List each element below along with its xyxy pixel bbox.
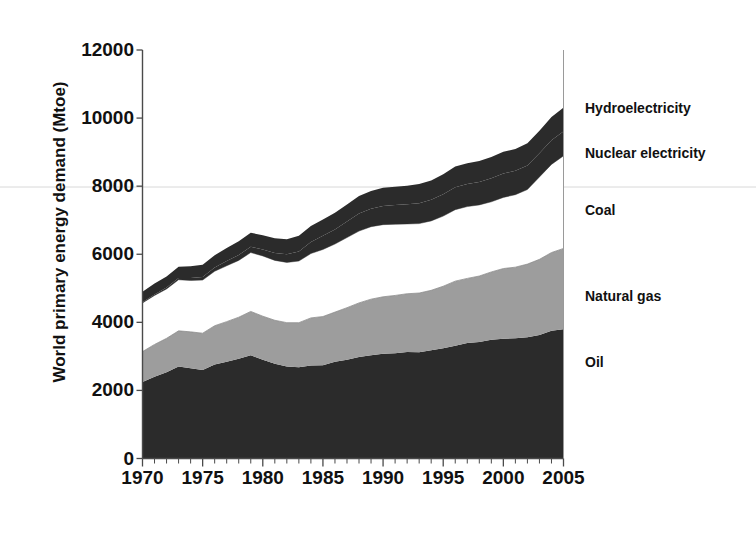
y-axis-tick-labels: 020004000600080001000012000	[46, 0, 134, 544]
y-axis-tick-label: 6000	[52, 244, 134, 263]
y-axis-ticks	[137, 50, 143, 459]
y-axis-tick-label: 8000	[52, 176, 134, 195]
series-label-hydroelectricity: Hydroelectricity	[585, 101, 691, 115]
y-axis-tick-label: 10000	[52, 108, 134, 127]
chart-figure: World primary energy demand (Mtoe) 02000…	[0, 0, 756, 544]
x-axis-ticks	[143, 459, 564, 467]
x-axis-tick-labels: 19701975198019851990199520002005	[0, 468, 756, 498]
series-label-oil: Oil	[585, 355, 604, 369]
y-axis-tick-label: 0	[52, 449, 134, 468]
series-label-natural-gas: Natural gas	[585, 289, 661, 303]
series-label-coal: Coal	[585, 203, 615, 217]
y-axis-tick-label: 4000	[52, 312, 134, 331]
series-label-nuclear-electricity: Nuclear electricity	[585, 146, 706, 160]
stacked-area-bands	[143, 108, 564, 459]
x-axis-tick-label: 2005	[529, 468, 599, 487]
y-axis-tick-label: 2000	[52, 380, 134, 399]
y-axis-tick-label: 12000	[52, 40, 134, 59]
